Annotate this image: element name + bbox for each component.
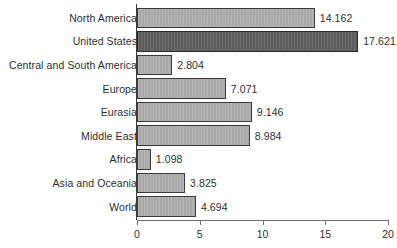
- value-label: 7.071: [231, 83, 258, 95]
- category-label: World: [109, 201, 137, 213]
- y-axis-line: [136, 4, 137, 220]
- bar-row: Asia and Oceania 3.825: [0, 171, 397, 195]
- value-label: 2.804: [177, 59, 204, 71]
- bar-track: 9.146: [137, 100, 395, 124]
- x-axis-tick: [200, 220, 201, 225]
- x-axis-tick: [137, 220, 138, 225]
- category-label: Asia and Oceania: [53, 177, 138, 189]
- x-axis-tick-label: 20: [382, 228, 394, 240]
- bar-row: Middle East 8.984: [0, 124, 397, 148]
- bar-track: 14.162: [137, 6, 395, 30]
- category-label: Central and South America: [9, 59, 137, 71]
- category-label: Africa: [110, 153, 137, 165]
- value-label: 9.146: [257, 106, 284, 118]
- bar-row: Eurasia 9.146: [0, 100, 397, 124]
- bar-row: Europe 7.071: [0, 77, 397, 101]
- bar-track: 3.825: [137, 171, 395, 195]
- category-label: Europe: [103, 83, 137, 95]
- bar-track: 8.984: [137, 124, 395, 148]
- bar: [137, 102, 252, 123]
- value-label: 8.984: [255, 130, 282, 142]
- x-axis-tick-label: 10: [257, 228, 269, 240]
- bar-row: Africa 1.098: [0, 148, 397, 172]
- value-label: 1.098: [156, 153, 183, 165]
- bar-track: 1.098: [137, 148, 395, 172]
- bar: [137, 173, 185, 194]
- bar: [137, 125, 250, 146]
- category-label: United States: [73, 35, 137, 47]
- x-axis-tick-label: 5: [197, 228, 203, 240]
- value-label: 14.162: [320, 12, 353, 24]
- x-axis-tick: [263, 220, 264, 225]
- category-label: Middle East: [81, 130, 137, 142]
- bar: [137, 55, 172, 76]
- x-axis-tick: [325, 220, 326, 225]
- bar-row: Central and South America 2.804: [0, 53, 397, 77]
- bar-row: World 4.694: [0, 195, 397, 219]
- value-label: 4.694: [201, 201, 228, 213]
- bar-row: United States 17.621: [0, 30, 397, 54]
- bar-track: 17.621: [137, 30, 395, 54]
- bar-row: North America 14.162: [0, 6, 397, 30]
- bar: [137, 31, 358, 52]
- value-label: 3.825: [190, 177, 217, 189]
- bar: [137, 78, 226, 99]
- bar: [137, 196, 196, 217]
- category-label: North America: [69, 12, 137, 24]
- bar-chart: North America 14.162 United States 17.62…: [0, 0, 397, 248]
- value-label: 17.621: [363, 35, 396, 47]
- bar-track: 2.804: [137, 53, 395, 77]
- x-axis-tick-label: 0: [134, 228, 140, 240]
- category-label: Eurasia: [101, 106, 137, 118]
- bar-track: 7.071: [137, 77, 395, 101]
- x-axis-tick-label: 15: [319, 228, 331, 240]
- bar: [137, 8, 315, 29]
- x-axis-tick: [388, 220, 389, 225]
- bars-container: North America 14.162 United States 17.62…: [0, 6, 397, 219]
- bar-track: 4.694: [137, 195, 395, 219]
- bar: [137, 149, 151, 170]
